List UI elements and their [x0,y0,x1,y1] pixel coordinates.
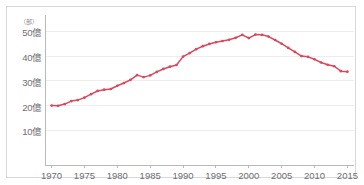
data-point [307,55,310,58]
data-point [162,68,165,71]
data-point [129,78,132,81]
x-axis-tick-label: 1990 [166,170,200,181]
data-point [267,35,270,38]
data-point [201,45,204,48]
data-point [287,47,290,50]
y-axis-tick-label: 50億 [12,25,42,39]
x-axis-tick-label: 2005 [265,170,299,181]
axes [45,15,354,168]
data-point [300,55,303,58]
line-chart-svg [7,7,357,179]
data-point [326,63,329,66]
data-point [96,90,99,93]
plot-area: （部） 10億20億30億40億50億 19701975198019851990… [7,7,357,179]
x-axis-tick-label: 1985 [133,170,167,181]
data-point [57,104,60,107]
data-point [188,52,191,55]
gridlines [45,31,354,130]
data-point [261,33,264,36]
data-point [274,39,277,42]
top-bleed-text [0,0,364,5]
data-point [333,65,336,68]
data-point [346,70,349,73]
data-point [90,93,93,96]
y-axis-tick-label: 20億 [12,100,42,114]
data-point [149,74,152,77]
data-point [208,43,211,46]
x-axis-tick-label: 1970 [35,170,69,181]
data-point [293,51,296,54]
x-axis-tick-label: 1975 [67,170,101,181]
x-axis-tick-label: 1995 [199,170,233,181]
data-point [155,71,158,74]
data-point-markers [50,33,349,107]
y-axis-tick-label: 30億 [12,75,42,89]
data-point [109,88,112,91]
data-point [241,33,244,36]
data-point [175,64,178,67]
data-point [234,36,237,39]
data-point [70,100,73,103]
chart-frame: （部） 10億20億30億40億50億 19701975198019851990… [6,6,356,178]
data-point [221,40,224,43]
data-point [195,48,198,51]
x-axis-tick-label: 2010 [298,170,332,181]
data-point [136,74,139,77]
data-series-line [52,35,348,106]
data-point [50,104,53,107]
data-point [215,41,218,44]
y-axis-tick-label: 40億 [12,50,42,64]
data-point [247,37,250,40]
data-point [103,88,106,91]
data-point [182,55,185,58]
data-point [77,99,80,102]
y-axis-tick-label: 10億 [12,124,42,138]
data-point [254,33,257,36]
data-point [313,58,316,61]
data-point [280,42,283,45]
x-axis-tick-label: 2015 [330,170,364,181]
data-point [169,65,172,68]
series-line-0 [52,35,348,106]
data-point [116,84,119,87]
data-point [228,38,231,41]
data-point [83,96,86,99]
x-axis-tick-label: 1980 [100,170,134,181]
data-point [320,61,323,64]
data-point [340,70,343,73]
data-point [123,82,126,85]
data-point [142,76,145,79]
x-axis-tick-label: 2000 [232,170,266,181]
data-point [63,103,66,106]
